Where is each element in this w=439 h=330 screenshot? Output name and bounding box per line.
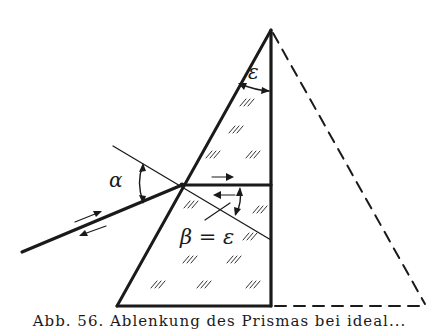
beta-leader-line [205,203,230,220]
incident-ray [22,185,182,252]
beta-arrowhead-up [236,187,243,196]
dashed-mirror-side [273,33,425,304]
beta-arrowhead-down [234,207,241,216]
epsilon-arrowhead-right [261,87,270,94]
arrowhead-left [213,191,221,199]
arrowhead-right [226,173,234,181]
figure-caption: Abb. 56. Ablenkung des Prismas bei ideal… [0,312,439,330]
glass-hatching [151,99,267,288]
epsilon-label: ε [248,60,259,84]
beta-equals-epsilon-label: β = ε [180,225,234,249]
incidence-point [180,183,185,188]
alpha-label: α [109,168,123,192]
